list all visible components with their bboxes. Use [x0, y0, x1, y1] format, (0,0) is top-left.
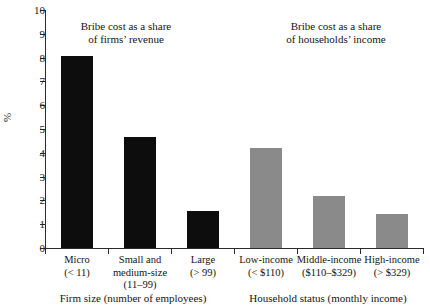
category-label-large-line1: Large [171, 254, 235, 267]
group-title-households: Household status (monthly income) [228, 292, 428, 304]
y-axis-line [45, 10, 46, 249]
y-tick-label-0: 0 [15, 243, 45, 254]
y-tick-label-7: 7 [15, 76, 45, 87]
group-title-firms: Firm size (number of employees) [38, 292, 228, 304]
bar-low-income [250, 148, 282, 248]
category-label-large-line2: (> 99) [171, 267, 235, 280]
y-tick-label-9: 9 [15, 29, 45, 40]
category-label-high-income-line2: (> $329) [356, 267, 428, 280]
bar-small-medium [124, 137, 156, 248]
y-tick-label-10: 10 [15, 5, 45, 16]
y-tick-label-4: 4 [15, 148, 45, 159]
category-label-high-income: High-income (> $329) [356, 254, 428, 279]
annotation-firms: Bribe cost as a share of firms’ revenue [62, 20, 190, 46]
y-axis-title: % [2, 113, 13, 122]
bar-large [187, 211, 219, 248]
annotation-households: Bribe cost as a share of households’ inc… [270, 20, 402, 46]
bar-middle-income [313, 196, 345, 248]
y-tick-label-6: 6 [15, 100, 45, 111]
annotation-households-line2: of households’ income [270, 33, 402, 46]
category-label-micro-line1: Micro [45, 254, 109, 267]
bar-high-income [376, 214, 408, 249]
y-tick-label-2: 2 [15, 195, 45, 206]
annotation-firms-line2: of firms’ revenue [62, 33, 190, 46]
category-label-small-medium-line2: medium-size [104, 267, 176, 280]
annotation-households-line1: Bribe cost as a share [270, 20, 402, 33]
category-label-small-medium-line3: (11–99) [104, 279, 176, 292]
y-tick-label-1: 1 [15, 219, 45, 230]
category-label-small-medium: Small and medium-size (11–99) [104, 254, 176, 292]
category-label-high-income-line1: High-income [356, 254, 428, 267]
bar-micro [61, 56, 93, 248]
y-tick-label-8: 8 [15, 53, 45, 64]
category-label-micro: Micro (< 11) [45, 254, 109, 279]
category-label-micro-line2: (< 11) [45, 267, 109, 280]
y-tick-label-3: 3 [15, 172, 45, 183]
category-label-small-medium-line1: Small and [104, 254, 176, 267]
y-tick-label-5: 5 [15, 124, 45, 135]
category-label-large: Large (> 99) [171, 254, 235, 279]
bar-chart: % 10 9 8 7 6 5 4 3 2 1 0 Micro (< 11) Sm… [0, 0, 430, 308]
annotation-firms-line1: Bribe cost as a share [62, 20, 190, 33]
